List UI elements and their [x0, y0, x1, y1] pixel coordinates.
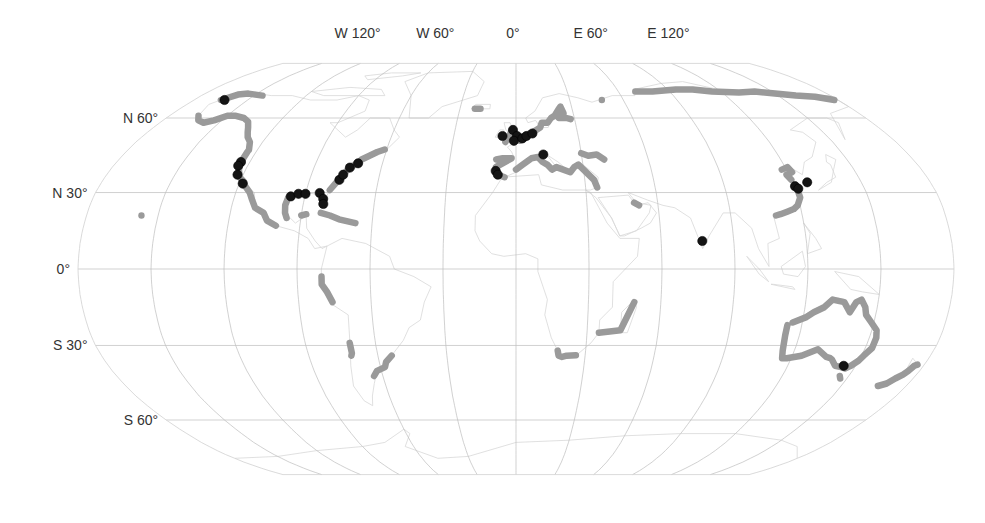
site-marker [233, 170, 242, 179]
coast-segment [581, 153, 604, 159]
coast-segment [374, 356, 392, 376]
site-marker [528, 129, 537, 138]
land-outline [405, 71, 484, 118]
coast-segment [285, 198, 288, 218]
world-map [0, 0, 985, 523]
land-outline [312, 87, 385, 95]
land-outline [771, 284, 795, 289]
markers-black [220, 95, 848, 370]
coast-segment [599, 97, 605, 103]
latitude-label: N 30° [18, 185, 88, 201]
site-marker [509, 136, 518, 145]
land-outline [819, 155, 836, 191]
site-marker [839, 361, 848, 370]
site-marker [220, 95, 229, 104]
site-marker [238, 179, 247, 188]
longitude-label: W 120° [335, 25, 381, 41]
land-outline [781, 251, 805, 276]
land-outline [321, 238, 431, 405]
coast-segment [558, 351, 576, 357]
site-marker [319, 199, 328, 208]
coast-segment [301, 214, 306, 215]
coast-segment [634, 203, 639, 206]
site-marker [354, 159, 363, 168]
coast-segment [782, 300, 877, 369]
latitude-label: S 30° [18, 337, 88, 353]
site-marker [803, 178, 812, 187]
land-outline [496, 82, 849, 267]
coast-segment [138, 212, 144, 218]
site-marker [698, 236, 707, 245]
latitude-label: N 60° [88, 110, 158, 126]
site-marker [339, 170, 348, 179]
land-outline [804, 223, 822, 254]
longitude-label: W 60° [416, 25, 454, 41]
coast-segment [782, 167, 792, 180]
land-outline [835, 272, 880, 295]
coast-segment [198, 116, 250, 150]
longitude-label: E 60° [573, 25, 607, 41]
longitude-label: 0° [506, 25, 519, 41]
longitude-label: E 120° [647, 25, 689, 41]
coast-segment [776, 190, 800, 216]
coast-segment [350, 343, 352, 356]
latitude-label: S 60° [88, 412, 158, 428]
site-marker [345, 163, 354, 172]
coast-segment [635, 89, 834, 100]
coast-segment [878, 365, 918, 386]
site-marker [234, 161, 243, 170]
graticule [78, 63, 954, 474]
site-marker [493, 170, 502, 179]
land-outlines [199, 71, 919, 458]
site-marker [794, 184, 803, 193]
coast-segment [322, 277, 333, 303]
site-marker [301, 189, 310, 198]
coast-segment [321, 213, 356, 223]
site-marker [498, 131, 507, 140]
site-marker [539, 150, 548, 159]
latitude-label: 0° [0, 261, 70, 277]
